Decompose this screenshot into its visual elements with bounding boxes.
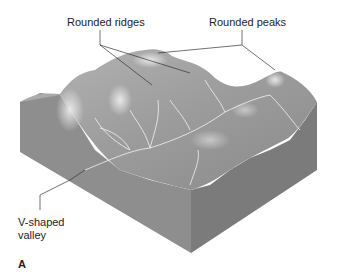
label-v-shaped-valley-line2: valley	[18, 229, 46, 241]
highlight	[190, 130, 230, 150]
highlight	[231, 102, 259, 118]
highlight	[265, 72, 285, 88]
panel-letter: A	[18, 258, 26, 270]
label-rounded-ridges: Rounded ridges	[67, 16, 145, 28]
highlight	[108, 84, 132, 116]
block-diagram	[0, 0, 337, 280]
label-v-shaped-valley-line1: V-shaped	[18, 216, 64, 228]
label-rounded-peaks: Rounded peaks	[209, 16, 286, 28]
highlight	[56, 88, 84, 132]
highlight	[132, 52, 168, 68]
